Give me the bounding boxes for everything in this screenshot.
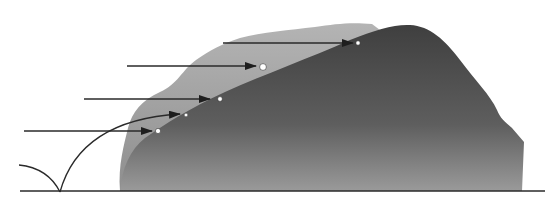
incoming-bounce-arc [19,165,60,192]
arrow-1-impact-point [155,128,160,133]
arrow-2-impact-point [218,97,223,102]
diagram-canvas [0,0,555,205]
impact-diagram [0,0,555,205]
arrow-3-impact-point [260,64,267,71]
bounce-impact-point [184,113,188,117]
arrow-4-impact-point [356,41,360,45]
